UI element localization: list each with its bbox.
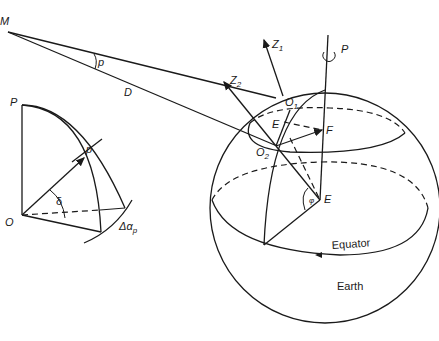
- pole-label-left: P: [10, 96, 18, 108]
- parallax-small-label: p: [85, 143, 92, 155]
- celestial-sector: [22, 105, 132, 243]
- moon-label: M: [0, 15, 10, 27]
- earth-label: Earth: [337, 280, 363, 292]
- parallax-arc: [94, 54, 96, 69]
- earth-sphere: [210, 35, 439, 323]
- rotation-icon: [323, 52, 335, 61]
- pole-label-right: P: [341, 43, 349, 55]
- point-f-label: F: [326, 124, 334, 136]
- equator-label: Equator: [331, 236, 371, 251]
- point-e-label: E: [272, 118, 280, 130]
- parallax-diagram: M p D P O δ p Δαp: [0, 0, 439, 341]
- parallax-angle-label: p: [97, 56, 104, 68]
- latitude-label: φ: [309, 196, 314, 205]
- origin-label: O: [5, 216, 14, 228]
- moon-sight-lines: [8, 32, 277, 146]
- delta-alpha-label: Δαp: [118, 220, 138, 235]
- center-label: E: [324, 193, 332, 205]
- zenith-1-label: Z1: [271, 38, 283, 53]
- declination-label: δ: [56, 195, 62, 207]
- distance-label: D: [124, 86, 132, 98]
- latitude-arc: [303, 188, 308, 210]
